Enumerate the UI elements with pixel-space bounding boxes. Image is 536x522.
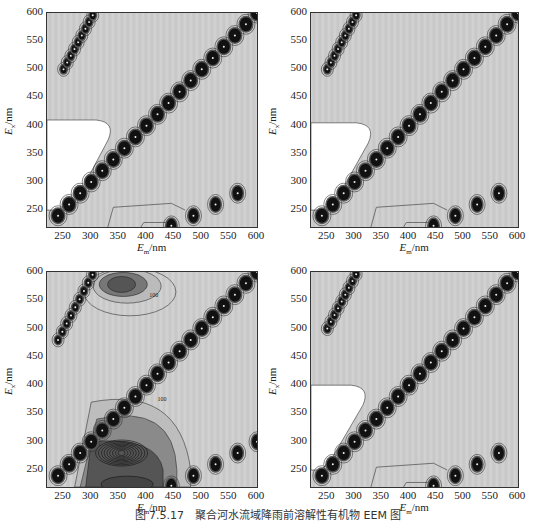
x-tick-label: 550 (213, 230, 243, 241)
scatter-blob (185, 466, 201, 486)
svg-text:100: 100 (158, 396, 167, 402)
y-tick-label: 550 (13, 34, 43, 45)
y-tick-label: 550 (277, 293, 307, 304)
scatter-blob (185, 206, 201, 226)
plot-area (310, 271, 519, 488)
x-tick-label: 500 (448, 490, 478, 501)
y-tick-label: 550 (277, 34, 307, 45)
y-tick-label: 350 (277, 406, 307, 417)
y-tick-label: 500 (277, 62, 307, 73)
x-tick-label: 500 (448, 230, 478, 241)
x-tick-label: 400 (393, 230, 423, 241)
x-axis-label: Em/nm (137, 241, 166, 256)
x-tick-label: 350 (103, 230, 133, 241)
y-tick-label: 300 (277, 435, 307, 446)
scatter-blob (426, 216, 442, 227)
scatter-blob (249, 432, 257, 452)
x-tick-label: 450 (420, 490, 450, 501)
y-tick-label: 500 (13, 322, 43, 333)
x-tick-label: 400 (130, 490, 160, 501)
x-tick-label: 250 (311, 230, 341, 241)
x-tick-label: 400 (130, 230, 160, 241)
y-tick-label: 300 (13, 435, 43, 446)
x-tick-label: 450 (158, 490, 188, 501)
y-tick-label: 450 (277, 90, 307, 101)
scatter-blob (230, 443, 246, 463)
y-tick-label: 350 (277, 147, 307, 158)
y-tick-label: 250 (277, 203, 307, 214)
plot-area: 100100 (46, 271, 258, 488)
y-axis-label: Ex/nm (2, 108, 17, 135)
scatter-blob (208, 454, 224, 474)
y-tick-label: 500 (277, 322, 307, 333)
y-tick-label: 250 (13, 463, 43, 474)
y-axis-label: Ex/nm (2, 367, 17, 394)
x-tick-label: 300 (339, 490, 369, 501)
x-tick-label: 450 (420, 230, 450, 241)
plot-area (46, 12, 258, 228)
x-tick-label: 300 (75, 490, 105, 501)
y-tick-label: 550 (13, 293, 43, 304)
y-tick-label: 600 (13, 265, 43, 276)
y-tick-label: 500 (13, 62, 43, 73)
y-tick-label: 300 (277, 175, 307, 186)
x-tick-label: 250 (311, 490, 341, 501)
x-tick-label: 600 (502, 490, 532, 501)
y-tick-label: 350 (13, 406, 43, 417)
x-tick-label: 550 (213, 490, 243, 501)
x-tick-label: 500 (186, 230, 216, 241)
y-tick-label: 400 (13, 119, 43, 130)
x-tick-label: 550 (475, 490, 505, 501)
scatter-blob (469, 454, 485, 474)
y-tick-label: 400 (277, 119, 307, 130)
x-tick-label: 600 (241, 230, 271, 241)
y-tick-label: 250 (277, 463, 307, 474)
y-axis-label: Ex/nm (266, 108, 281, 135)
scatter-blob (426, 476, 442, 487)
y-tick-label: 450 (277, 350, 307, 361)
y-tick-label: 600 (277, 6, 307, 17)
scatter-blob (491, 183, 507, 203)
x-tick-label: 350 (103, 490, 133, 501)
y-tick-label: 600 (13, 6, 43, 17)
x-tick-label: 550 (475, 230, 505, 241)
y-tick-label: 400 (13, 378, 43, 389)
x-tick-label: 600 (241, 490, 271, 501)
y-tick-label: 450 (13, 350, 43, 361)
x-tick-label: 300 (75, 230, 105, 241)
x-tick-label: 350 (366, 490, 396, 501)
x-tick-label: 250 (48, 230, 78, 241)
y-axis-label: Ex/nm (266, 367, 281, 394)
y-tick-label: 250 (13, 203, 43, 214)
svg-text:100: 100 (149, 292, 158, 298)
y-tick-label: 350 (13, 147, 43, 158)
contour-plot: 100100 (47, 272, 257, 487)
contour-plot (47, 13, 257, 227)
scatter-blob (208, 194, 224, 214)
scatter-blob (469, 194, 485, 214)
scatter-blob (447, 206, 463, 226)
y-tick-label: 400 (277, 378, 307, 389)
contour-plot (311, 13, 518, 227)
scatter-blob (491, 443, 507, 463)
y-tick-label: 300 (13, 175, 43, 186)
x-tick-label: 250 (48, 490, 78, 501)
y-tick-label: 450 (13, 90, 43, 101)
scatter-blob (163, 216, 179, 227)
scatter-blob (230, 183, 246, 203)
x-tick-label: 500 (186, 490, 216, 501)
x-tick-label: 300 (339, 230, 369, 241)
contour-plot (311, 272, 518, 487)
x-axis-label: Em/nm (400, 241, 429, 256)
scatter-blob (447, 466, 463, 486)
y-tick-label: 600 (277, 265, 307, 276)
x-tick-label: 600 (502, 230, 532, 241)
figure-caption: 图 7.5.17 聚合河水流域降雨前溶解性有机物 EEM 图 (0, 506, 536, 522)
plot-area (310, 12, 519, 228)
x-tick-label: 350 (366, 230, 396, 241)
x-tick-label: 450 (158, 230, 188, 241)
x-tick-label: 400 (393, 490, 423, 501)
